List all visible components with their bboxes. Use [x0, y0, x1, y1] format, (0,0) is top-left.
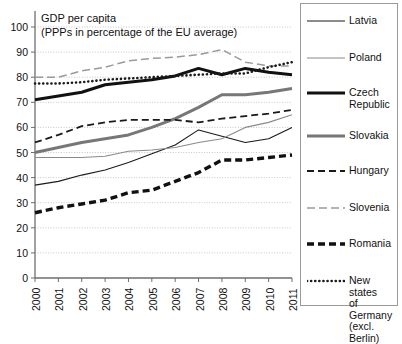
legend-swatch-icon: [307, 201, 345, 215]
x-tick-label: 2004: [124, 288, 134, 311]
legend-item-latvia[interactable]: Latvia: [307, 14, 397, 28]
series-line-slovenia: [35, 50, 292, 78]
y-tick-label: 20: [2, 223, 28, 233]
x-tick-label: 2003: [101, 288, 111, 311]
legend-item-hungary[interactable]: Hungary: [307, 164, 397, 178]
series-line-romania: [35, 155, 292, 213]
x-tick-label: 2005: [148, 288, 158, 311]
legend-swatch-icon: [307, 51, 345, 65]
y-tick-label: 80: [2, 72, 28, 82]
legend-label: Slovenia: [349, 201, 389, 214]
chart-legend: LatviaPolandCzech RepublicSlovakiaHungar…: [300, 3, 398, 306]
line-chart-svg: [0, 0, 300, 337]
legend-swatch-icon: [307, 237, 345, 251]
legend-item-romania[interactable]: Romania: [307, 237, 397, 251]
x-tick-label: 2007: [195, 288, 205, 311]
legend-item-slovenia[interactable]: Slovenia: [307, 201, 397, 215]
legend-swatch-icon: [307, 14, 345, 28]
x-tick-label: 2002: [78, 288, 88, 311]
x-tick-label: 2000: [31, 288, 41, 311]
y-tick-label: 100: [2, 22, 28, 32]
series-line-latvia: [35, 127, 292, 185]
y-tick-label: 40: [2, 173, 28, 183]
y-tick-label: 10: [2, 248, 28, 258]
x-tick-label: 2008: [218, 288, 228, 311]
plot-area: 0102030405060708090100 20002001200220032…: [0, 0, 300, 337]
x-tick-label: 2011: [288, 288, 298, 311]
y-tick-label: 0: [2, 273, 28, 283]
legend-label: Latvia: [349, 14, 377, 27]
legend-label: Hungary: [349, 164, 389, 177]
legend-item-new-states-of-germany-excl-berlin[interactable]: New states of Germany (excl. Berlin): [307, 274, 397, 344]
legend-item-czech-republic[interactable]: Czech Republic: [307, 86, 397, 110]
legend-item-poland[interactable]: Poland: [307, 51, 397, 65]
y-tick-label: 30: [2, 198, 28, 208]
y-tick-label: 50: [2, 148, 28, 158]
legend-swatch-icon: [307, 164, 345, 178]
legend-label: Poland: [349, 51, 382, 64]
chart-title: GDP per capita (PPPs in percentage of th…: [41, 12, 237, 39]
legend-swatch-icon: [307, 274, 345, 288]
x-tick-label: 2009: [241, 288, 251, 311]
legend-item-slovakia[interactable]: Slovakia: [307, 129, 397, 143]
legend-label: Slovakia: [349, 129, 389, 142]
series-line-slovakia: [35, 88, 292, 152]
y-tick-label: 90: [2, 47, 28, 57]
x-tick-label: 2001: [54, 288, 64, 311]
y-tick-label: 60: [2, 122, 28, 132]
x-tick-label: 2010: [265, 288, 275, 311]
series-line-poland: [35, 115, 292, 158]
legend-label: New states of Germany (excl. Berlin): [349, 274, 397, 344]
y-tick-label: 70: [2, 97, 28, 107]
legend-label: Czech Republic: [349, 86, 390, 110]
x-tick-label: 2006: [171, 288, 181, 311]
legend-label: Romania: [349, 237, 391, 250]
legend-swatch-icon: [307, 129, 345, 143]
legend-swatch-icon: [307, 86, 345, 100]
